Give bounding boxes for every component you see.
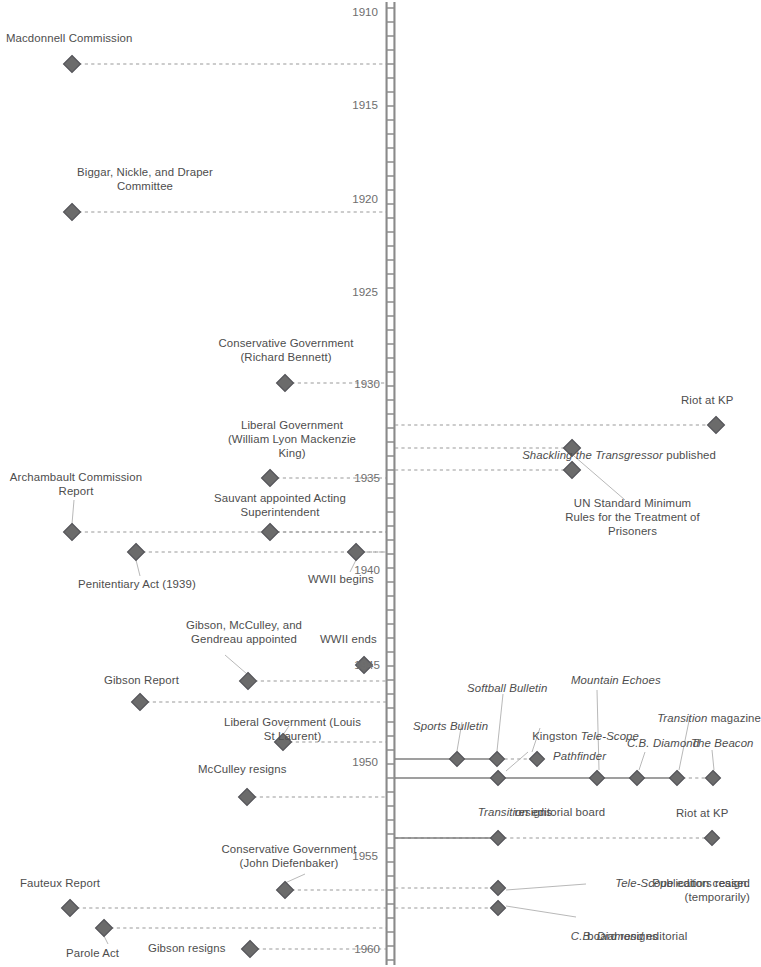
event-label-liberal-stlaurent-line1: Liberal Government (Louis: [180, 715, 405, 729]
year-axis-spine: [386, 2, 396, 965]
event-label-liberal-king-line2: (William Lyon Mackenzie: [192, 432, 392, 446]
event-label-transition-magazine-suffix: magazine: [707, 712, 761, 724]
event-label-penitentiary-act: Penitentiary Act (1939): [78, 577, 196, 591]
event-label-un-rules-line3: Prisoners: [545, 524, 720, 538]
event-label-un-rules-line2: Rules for the Treatment of: [545, 510, 720, 524]
event-label-sports-bulletin: Sports Bulletin: [413, 719, 488, 733]
event-label-liberal-king-line1: Liberal Government: [192, 418, 392, 432]
event-label-riot-at-kp-1932: Riot at KP: [681, 393, 733, 407]
event-label-parole-act: Parole Act: [66, 946, 119, 960]
event-label-conservative-diefenbaker-line2: (John Diefenbaker): [178, 856, 400, 870]
event-label-cb-diamond-board-line2: board resigns: [500, 929, 745, 943]
event-label-pathfinder: Pathfinder: [553, 749, 606, 763]
event-label-sauvant-line2: Superintendent: [170, 505, 390, 519]
event-label-wwii-begins: WWII begins: [308, 572, 374, 586]
year-tick-1920: 1920: [320, 192, 378, 205]
event-label-macdonnell-commission: Macdonnell Commission: [6, 31, 132, 45]
event-label-transition-board-line2: resigns.: [415, 805, 655, 819]
event-label-conservative-diefenbaker-line1: Conservative Government: [178, 842, 400, 856]
event-label-wwii-ends: WWII ends: [320, 632, 377, 646]
year-tick-1930: 1930: [322, 377, 380, 390]
year-tick-1950: 1950: [320, 755, 378, 768]
event-label-shackling-suffix: published: [663, 449, 716, 461]
year-tick-1915: 1915: [320, 98, 378, 111]
event-label-kingston-prefix: Kingston: [532, 730, 581, 742]
event-label-fauteux-report: Fauteux Report: [20, 876, 100, 890]
event-label-gibson-resigns: Gibson resigns: [148, 941, 226, 955]
event-label-liberal-stlaurent-line2: St Laurent): [180, 729, 405, 743]
event-label-the-beacon: The Beacon: [691, 736, 754, 750]
event-label-biggar-committee-line1: Biggar, Nickle, and Draper: [0, 165, 290, 179]
event-label-transition-word: Transition: [657, 712, 707, 724]
event-label-mountain-echoes: Mountain Echoes: [571, 673, 661, 687]
event-label-gibson-mcculley-line1: Gibson, McCulley, and: [135, 618, 353, 632]
year-tick-1960: 1960: [322, 942, 380, 955]
event-label-liberal-king-line3: King): [192, 446, 392, 460]
event-label-conservative-bennett-line1: Conservative Government: [175, 336, 397, 350]
event-label-gibson-report: Gibson Report: [104, 673, 179, 687]
event-label-mcculley-resigns: McCulley resigns: [198, 762, 287, 776]
year-tick-1910: 1910: [320, 5, 378, 18]
year-tick-1925: 1925: [320, 285, 378, 298]
event-label-biggar-committee-line2: Committee: [0, 179, 290, 193]
event-label-archambault-line1: Archambault Commission: [0, 470, 152, 484]
event-label-telescope-resign-line2: Publication ceased: [500, 876, 750, 890]
event-label-conservative-bennett-line2: (Richard Bennett): [175, 350, 397, 364]
event-label-telescope-resign-line3: (temporarily): [500, 890, 750, 904]
event-label-archambault-line2: Report: [0, 484, 152, 498]
event-label-shackling-title: Shackling the Transgressor: [522, 449, 663, 461]
year-tick-1935: 1935: [322, 471, 380, 484]
event-label-softball-bulletin: Softball Bulletin: [467, 681, 547, 695]
event-label-riot-at-kp-1953: Riot at KP: [676, 806, 728, 820]
year-tick-1945: 1945: [322, 658, 380, 671]
event-label-sauvant-line1: Sauvant appointed Acting: [170, 491, 390, 505]
event-label-un-rules-line1: UN Standard Minimum: [545, 496, 720, 510]
